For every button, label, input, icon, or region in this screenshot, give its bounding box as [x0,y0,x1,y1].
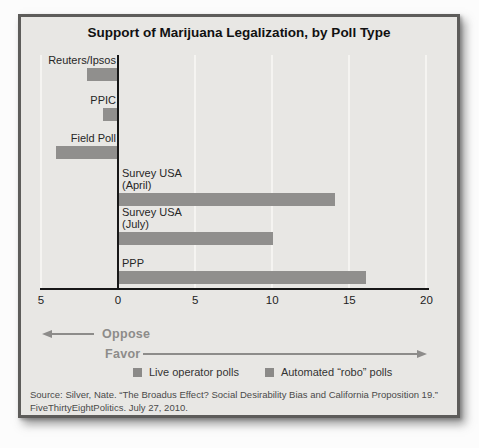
gridline [40,55,42,288]
gridline [425,55,427,288]
oppose-arrow-line [51,333,94,335]
x-tick-15: 15 [332,294,366,306]
gridline [348,55,350,288]
legend-item-automated-robo: Automated “robo” polls [265,366,392,378]
category-label-survey-usa-july: Survey USA (July) [122,207,182,230]
chart-frame: Support of Marijuana Legalization, by Po… [18,14,460,418]
bar-survey-usa-july [119,232,273,245]
bar-reuters-ipsos [87,68,118,81]
legend-swatch-automated-robo-icon [265,368,274,377]
legend-label-automated-robo: Automated “robo” polls [281,366,392,378]
favor-arrow-line [143,353,417,355]
bar-field-poll [56,146,118,159]
bar-survey-usa-april [119,193,335,206]
category-label-field-poll: Field Poll [21,133,116,145]
x-tick-20: 20 [409,294,443,306]
plot-area: Reuters/IpsosPPICField PollSurvey USA (A… [21,17,457,415]
zero-axis-line [117,55,119,290]
oppose-label: Oppose [102,327,150,341]
legend-swatch-live-operator-icon [133,368,142,377]
bar-ppp [119,271,366,284]
bar-ppic [103,108,118,121]
source-line-1: Source: Silver, Nate. “The Broadus Effec… [30,389,450,402]
category-label-reuters-ipsos: Reuters/Ipsos [21,55,116,67]
category-label-ppic: PPIC [21,95,116,107]
x-tick-10: 10 [255,294,289,306]
favor-label: Favor [105,347,141,361]
legend: Live operator polls Automated “robo” pol… [133,366,392,378]
x-tick-5: 5 [24,294,58,306]
gridline [194,55,196,288]
source-citation: Source: Silver, Nate. “The Broadus Effec… [30,389,450,414]
category-label-ppp: PPP [122,258,144,270]
x-tick-5: 5 [178,294,212,306]
gridline [271,55,273,288]
x-axis-line [40,288,429,290]
source-line-2: FiveThirtyEightPolitics. July 27, 2010. [30,402,450,415]
legend-item-live-operator: Live operator polls [133,366,239,378]
category-label-survey-usa-april: Survey USA (April) [122,168,182,191]
x-tick-0: 0 [101,294,135,306]
legend-label-live-operator: Live operator polls [149,366,239,378]
favor-arrow-icon [417,350,427,358]
